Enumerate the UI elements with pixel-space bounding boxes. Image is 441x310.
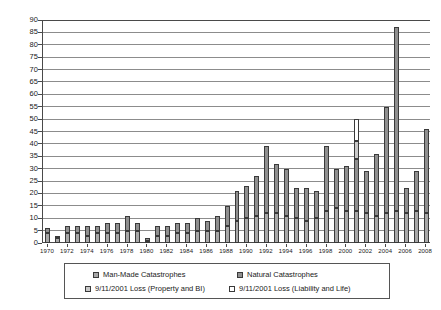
x-axis-tick-label: 1998	[319, 248, 333, 254]
bar-group[interactable]	[324, 20, 329, 242]
bar-group[interactable]	[404, 20, 409, 242]
bar-group[interactable]	[264, 20, 269, 242]
bar-group[interactable]	[135, 20, 140, 242]
x-axis-tick-label: 1982	[159, 248, 173, 254]
legend-label: Man-Made Catastrophes	[103, 271, 186, 279]
bar-group[interactable]	[394, 20, 399, 242]
bar-segment	[334, 208, 339, 243]
bar-group[interactable]	[225, 20, 230, 242]
y-axis-tick-label: 15	[2, 202, 38, 210]
bar-group[interactable]	[284, 20, 289, 242]
y-axis: 051015202530354045505560657075808590	[0, 20, 38, 243]
bar-group[interactable]	[374, 20, 379, 242]
bar-segment	[155, 226, 160, 236]
bar-group[interactable]	[294, 20, 299, 242]
bar-segment	[75, 226, 80, 233]
bar-group[interactable]	[145, 20, 150, 242]
bar-group[interactable]	[185, 20, 190, 242]
bar-group[interactable]	[274, 20, 279, 242]
bar-segment	[374, 154, 379, 216]
bar-group[interactable]	[155, 20, 160, 242]
bar-segment	[264, 146, 269, 213]
bar-group[interactable]	[125, 20, 130, 242]
bar-segment	[414, 171, 419, 211]
legend-label: 9/11/2001 Loss (Property and BI)	[95, 285, 205, 293]
bar-group[interactable]	[55, 20, 60, 242]
legend-item[interactable]: 9/11/2001 Loss (Property and BI)	[85, 285, 205, 293]
y-axis-tick-label: 40	[2, 140, 38, 148]
bar-group[interactable]	[314, 20, 319, 242]
bar-group[interactable]	[175, 20, 180, 242]
bar-group[interactable]	[165, 20, 170, 242]
bar-group[interactable]	[95, 20, 100, 242]
legend-item[interactable]: Natural Catastrophes	[237, 271, 318, 279]
bar-group[interactable]	[215, 20, 220, 242]
bar-segment	[165, 236, 170, 243]
bar-group[interactable]	[304, 20, 309, 242]
bar-segment	[115, 223, 120, 233]
bar-group[interactable]	[254, 20, 259, 242]
bar-group[interactable]	[364, 20, 369, 242]
bar-segment	[185, 223, 190, 233]
x-axis-tick-mark	[405, 244, 406, 247]
chart-legend: Man-Made CatastrophesNatural Catastrophe…	[64, 263, 390, 299]
bar-group[interactable]	[75, 20, 80, 242]
y-axis-tick-label: 75	[2, 53, 38, 61]
bar-segment	[235, 221, 240, 243]
legend-item[interactable]: Man-Made Catastrophes	[93, 271, 186, 279]
bar-segment	[294, 188, 299, 218]
bar-segment	[374, 216, 379, 243]
x-axis-tick-label: 1996	[299, 248, 313, 254]
bar-segment	[304, 221, 309, 243]
bar-group[interactable]	[65, 20, 70, 242]
bar-segment	[364, 213, 369, 243]
x-axis-tick-mark	[166, 244, 167, 247]
bar-segment	[314, 218, 319, 243]
bar-group[interactable]	[384, 20, 389, 242]
bar-segment	[135, 223, 140, 230]
bar-segment	[254, 216, 259, 243]
y-axis-tick-label: 65	[2, 78, 38, 86]
bar-group[interactable]	[344, 20, 349, 242]
bar-segment	[55, 236, 60, 238]
bar-group[interactable]	[85, 20, 90, 242]
legend-item[interactable]: 9/11/2001 Loss (Liability and Life)	[229, 285, 351, 293]
bar-segment	[125, 216, 130, 231]
y-axis-tick-label: 35	[2, 152, 38, 160]
bar-group[interactable]	[414, 20, 419, 242]
bar-group[interactable]	[195, 20, 200, 242]
bar-group[interactable]	[45, 20, 50, 242]
bar-group[interactable]	[244, 20, 249, 242]
bar-group[interactable]	[235, 20, 240, 242]
x-axis: 1970197219741976197819801982198419861988…	[42, 244, 430, 258]
x-axis-tick-mark	[286, 244, 287, 247]
bar-segment	[45, 233, 50, 243]
x-axis-tick-mark	[226, 244, 227, 247]
bar-segment	[175, 233, 180, 243]
bar-segment	[95, 226, 100, 233]
bar-segment	[95, 233, 100, 243]
x-axis-tick-label: 1994	[279, 248, 293, 254]
x-axis-tick-label: 1988	[219, 248, 233, 254]
x-axis-tick-mark	[47, 244, 48, 247]
bar-group[interactable]	[105, 20, 110, 242]
bar-segment	[125, 231, 130, 243]
bar-segment	[404, 213, 409, 243]
x-axis-tick-mark	[266, 244, 267, 247]
x-axis-tick-mark	[107, 244, 108, 247]
bar-group[interactable]	[115, 20, 120, 242]
x-axis-tick-mark	[326, 244, 327, 247]
bar-group[interactable]	[354, 20, 359, 242]
bar-group[interactable]	[334, 20, 339, 242]
x-axis-tick-label: 1986	[199, 248, 213, 254]
x-axis-tick-label: 1970	[40, 248, 54, 254]
bar-segment	[155, 236, 160, 243]
x-axis-tick-label: 2002	[358, 248, 372, 254]
x-axis-tick-mark	[206, 244, 207, 247]
bar-segment	[165, 226, 170, 236]
x-axis-tick-label: 2000	[339, 248, 353, 254]
bar-group[interactable]	[205, 20, 210, 242]
bar-group[interactable]	[424, 20, 429, 242]
x-axis-tick-mark	[306, 244, 307, 247]
x-axis-tick-mark	[186, 244, 187, 247]
